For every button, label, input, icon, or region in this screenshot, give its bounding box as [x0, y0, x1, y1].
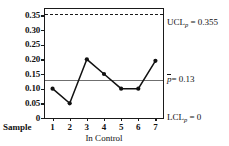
x-axis-tick-label: 5: [114, 122, 128, 132]
center-line-annotation: p= 0.13: [167, 73, 195, 84]
x-axis-tick-label: 6: [131, 122, 145, 132]
x-axis-title: In Control: [44, 133, 164, 143]
x-axis-tick-mark: [87, 118, 88, 122]
x-axis-tick-mark: [70, 118, 71, 122]
lcl-label-prefix: LCL: [167, 112, 184, 122]
x-axis-tick-label: 3: [80, 122, 94, 132]
x-axis-tick-mark: [155, 118, 156, 122]
series-markers: [50, 57, 157, 105]
ucl-label-subscript: p: [185, 21, 188, 28]
x-axis-tick-label: 1: [46, 122, 60, 132]
pbar-symbol: p: [167, 73, 172, 84]
x-axis-tick-mark: [53, 118, 54, 122]
ucl-label-value: = 0.355: [191, 17, 219, 27]
x-axis-tick-label: 7: [148, 122, 162, 132]
x-axis-tick-mark: [138, 118, 139, 122]
lcl-label-value: = 0: [190, 112, 202, 122]
data-point: [153, 59, 157, 63]
ucl-annotation: UCLp = 0.355: [167, 17, 218, 28]
x-axis-series-name: Sample: [3, 122, 32, 132]
lcl-annotation: LCLp = 0: [167, 112, 201, 123]
x-axis-tick-mark: [104, 118, 105, 122]
x-axis-tick-label: 4: [97, 122, 111, 132]
x-axis-tick-label: 2: [63, 122, 77, 132]
series-polyline: [53, 59, 156, 103]
control-chart: 00.050.100.150.200.250.300.35 1234567 Sa…: [0, 0, 229, 146]
center-label-value: = 0.13: [172, 74, 195, 84]
lcl-label-subscript: p: [184, 116, 187, 123]
ucl-label-prefix: UCL: [167, 17, 185, 27]
data-point: [50, 87, 54, 91]
data-point: [102, 72, 106, 76]
data-point: [119, 87, 123, 91]
data-point: [136, 87, 140, 91]
x-axis-tick-mark: [121, 118, 122, 122]
data-point: [85, 57, 89, 61]
data-point: [68, 101, 72, 105]
